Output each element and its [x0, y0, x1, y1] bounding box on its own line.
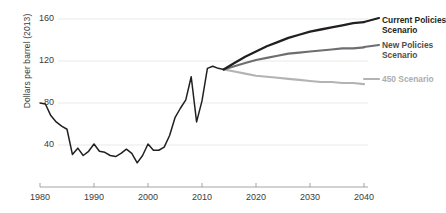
series-line-historical [40, 66, 224, 163]
legend-item-450-scenario: 450 Scenario [382, 75, 434, 85]
series-line-450-scenario [224, 69, 364, 84]
legend-swatches [364, 18, 379, 79]
legend-label-450-scenario: 450 Scenario [382, 75, 434, 85]
x-axis-line [40, 183, 368, 187]
legend-item-new-policies: New Policies Scenario [382, 41, 433, 60]
legend-label-new-policies-line2: Scenario [382, 51, 433, 61]
legend-item-current-policies: Current Policies Scenario [382, 16, 446, 35]
legend-label-current-policies-line2: Scenario [382, 26, 446, 36]
